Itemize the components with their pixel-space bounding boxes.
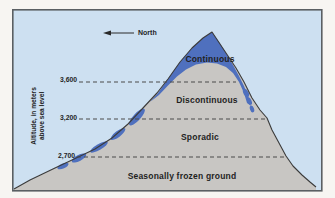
zone-label-seasonally-frozen: Seasonally frozen ground [112,171,252,181]
zone-label-continuous: Continuous [160,54,260,64]
tick-3600: 3,600 [37,76,77,83]
permafrost-diagram: North Altitude, in meters above sea leve… [0,0,335,198]
tick-3200: 3,200 [37,114,77,121]
zone-label-discontinuous: Discontinuous [157,95,257,105]
zone-label-sporadic: Sporadic [150,132,250,142]
north-label: North [138,29,157,36]
tick-2700: 2,700 [35,152,75,159]
